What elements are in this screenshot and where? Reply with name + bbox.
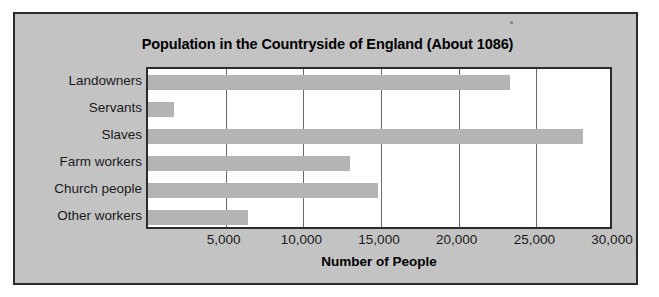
bar-slaves	[148, 129, 583, 144]
bar-farm-workers	[148, 156, 350, 171]
x-tick-label-20000: 20,000	[436, 232, 477, 247]
bar-row	[148, 123, 610, 150]
plot-area	[146, 67, 612, 229]
category-label-church-people: Church people	[54, 175, 142, 202]
bar-other-workers	[148, 210, 248, 225]
x-tick-label-5000: 5,000	[207, 232, 241, 247]
category-label-servants: Servants	[89, 94, 142, 121]
category-label-landowners: Landowners	[68, 67, 142, 94]
bar-servants	[148, 102, 174, 117]
chart-title: Population in the Countryside of England…	[15, 36, 640, 52]
x-axis-tick-labels: 5,00010,00015,00020,00025,00030,000	[146, 232, 612, 252]
chart-figure: Population in the Countryside of England…	[13, 12, 638, 285]
x-tick-label-25000: 25,000	[514, 232, 555, 247]
category-label-farm-workers: Farm workers	[59, 148, 142, 175]
category-label-slaves: Slaves	[101, 121, 142, 148]
x-axis-title: Number of People	[146, 254, 612, 269]
bar-church-people	[148, 183, 378, 198]
category-label-other-workers: Other workers	[57, 202, 142, 229]
bar-row	[148, 96, 610, 123]
x-tick-label-10000: 10,000	[281, 232, 322, 247]
print-speck	[510, 21, 513, 24]
bar-row	[148, 204, 610, 231]
bar-row	[148, 69, 610, 96]
bar-row	[148, 177, 610, 204]
x-tick-label-15000: 15,000	[358, 232, 399, 247]
bar-row	[148, 150, 610, 177]
bar-series	[148, 69, 610, 227]
bar-landowners	[148, 75, 510, 90]
y-axis-category-labels: LandownersServantsSlavesFarm workersChur…	[15, 67, 142, 229]
x-tick-label-30000: 30,000	[591, 232, 632, 247]
